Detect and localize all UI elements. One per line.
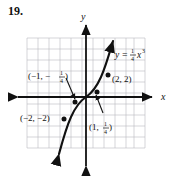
point-marker-neg1 (73, 100, 78, 105)
point-label-neg1-numerator: 1 (60, 70, 63, 76)
point-label-neg1-denominator: 4 (60, 78, 63, 84)
point-label-1-numerator: 1 (104, 121, 107, 127)
point-label-1-prefix: (1, (89, 122, 99, 132)
point-label-1: (1, 1 4 ) (89, 121, 112, 135)
x-axis-label: x (160, 91, 166, 102)
equation-lhs: y = (114, 50, 128, 60)
equation-frac-numerator: 1 (131, 48, 134, 54)
point-marker-2 (106, 73, 111, 78)
equation-frac-denominator: 4 (131, 56, 134, 62)
point-marker-1 (95, 90, 100, 95)
y-axis-label: y (80, 11, 86, 22)
graph-figure: 19. (0, 0, 176, 179)
coordinate-plane-svg: x y y = 1 4 x 3 (−1, − 1 4 ) (2, 2) (−2,… (0, 0, 176, 179)
point-label-1-suffix: ) (109, 122, 112, 132)
point-label-neg1-suffix: ) (65, 71, 68, 81)
leader-line-neg1 (66, 78, 75, 99)
point-label-1-denominator: 4 (104, 129, 107, 135)
point-label-2: (2, 2) (112, 74, 132, 84)
point-marker-neg2 (62, 117, 67, 122)
point-label-neg1-prefix: (−1, − (28, 71, 50, 81)
point-label-neg2: (−2, −2) (20, 113, 50, 123)
equation-exponent: 3 (142, 48, 145, 54)
